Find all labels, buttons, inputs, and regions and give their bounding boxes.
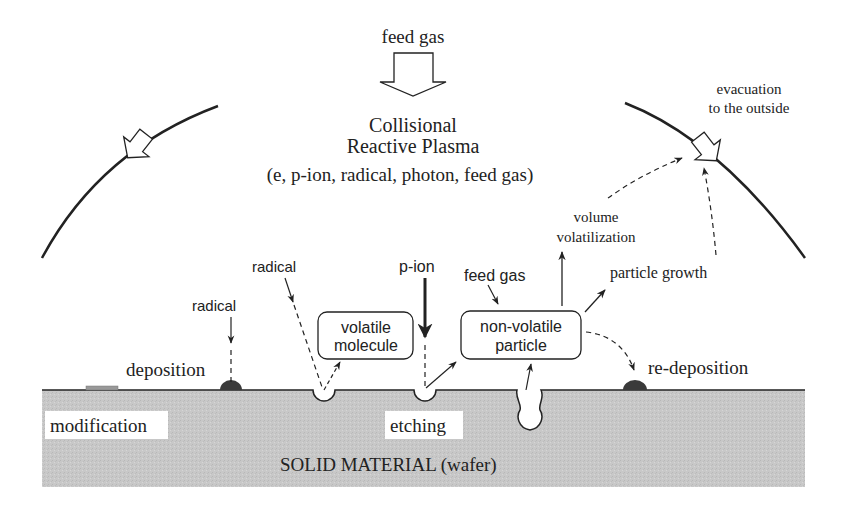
evacuation-label-line1: evacuation [717, 81, 782, 97]
radical-center-arrow [285, 278, 293, 302]
chamber-wall-left [42, 106, 218, 258]
volatile-release-arrow [324, 362, 340, 390]
particle-rise-arrow [526, 364, 531, 390]
etching-label: etching [390, 415, 446, 436]
modification-label: modification [50, 415, 148, 436]
volume-label-line2: volatilization [556, 229, 636, 245]
re-deposition-label: re-deposition [648, 357, 749, 378]
feed-gas-small-label: feed gas [464, 267, 525, 284]
feed-gas-label: feed gas [382, 26, 445, 47]
feed-gas-arrow-icon [380, 53, 446, 96]
radical-left-label: radical [192, 297, 236, 314]
re-deposition-arrow [586, 332, 634, 370]
evacuation-label-line2: to the outside [709, 100, 790, 116]
volume-label-line1: volume [574, 209, 619, 225]
re-deposition-bump [623, 380, 647, 390]
particle-growth-to-evacuation-arrow [704, 168, 716, 255]
deposition-label: deposition [126, 359, 206, 380]
plasma-title-line2: Reactive Plasma [347, 135, 480, 157]
p-ion-label: p-ion [399, 258, 435, 275]
volatile-box-line2: molecule [334, 337, 398, 354]
radical-center-label: radical [252, 258, 296, 275]
solid-material-label: SOLID MATERIAL (wafer) [280, 454, 497, 476]
feed-gas-small-arrow [488, 285, 498, 304]
plasma-title-line1: Collisional [369, 114, 457, 136]
nonvolatile-box-line2: particle [495, 337, 547, 354]
particle-growth-arrow [585, 290, 605, 312]
volatile-box-line1: volatile [341, 319, 391, 336]
chamber-wall-right [625, 103, 805, 258]
volatilization-to-evacuation-arrow [608, 158, 682, 198]
plasma-process-diagram: feed gas Collisional Reactive Plasma (e,… [0, 0, 843, 513]
particle-growth-label: particle growth [610, 264, 707, 282]
etch-product-arrow [426, 362, 456, 388]
nonvolatile-box-line1: non-volatile [480, 318, 562, 335]
modification-layer [86, 386, 118, 390]
plasma-species: (e, p-ion, radical, photon, feed gas) [267, 164, 533, 186]
